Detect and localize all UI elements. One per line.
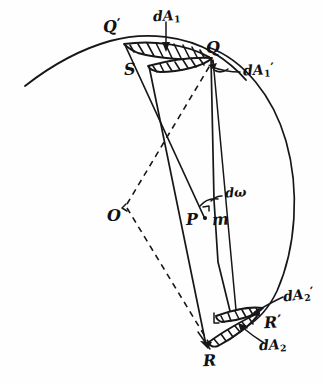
label-dA1: dA1 bbox=[153, 7, 181, 25]
angle-arc-domega bbox=[200, 199, 218, 206]
ray-S-to-R bbox=[149, 66, 206, 345]
label-dA1-prime: dA1′ bbox=[243, 61, 275, 79]
label-point-S: S bbox=[124, 61, 137, 78]
point-P-dot bbox=[203, 216, 207, 220]
label-point-m: m bbox=[212, 211, 230, 229]
label-point-R-prime: R′ bbox=[264, 314, 282, 332]
figure-canvas: Q′ dA1 Q dA1′ S O dω P m dA2′ R′ dA2 R bbox=[0, 0, 322, 384]
label-dA2-prime: dA2′ bbox=[282, 285, 315, 305]
label-point-R: R bbox=[203, 352, 217, 369]
label-point-Q-prime: Q′ bbox=[102, 17, 122, 35]
label-point-Q: Q bbox=[206, 39, 221, 57]
label-point-O: O bbox=[107, 207, 121, 224]
label-dA2: dA2 bbox=[259, 336, 287, 354]
vertex-O-corner bbox=[122, 204, 127, 211]
large-sphere-arc bbox=[208, 47, 294, 327]
arrowhead-R bbox=[200, 341, 212, 349]
dashed-radius-O-to-Q bbox=[127, 62, 212, 204]
label-d-omega: dω bbox=[225, 185, 247, 199]
angle-vertex-tick bbox=[203, 206, 209, 211]
label-point-P: P bbox=[186, 211, 199, 228]
